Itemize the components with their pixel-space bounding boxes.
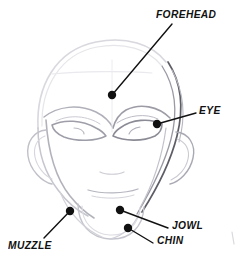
callout-label-forehead: FOREHEAD <box>156 9 216 20</box>
left-eye <box>52 121 106 140</box>
jaw-bottom-left <box>60 192 104 238</box>
right-eye <box>113 120 162 140</box>
mouth-line <box>88 189 138 193</box>
right-eye-iris <box>129 127 140 134</box>
right-eye-crease <box>117 116 158 123</box>
nose-line <box>100 172 124 174</box>
cranium-outline-inner <box>42 45 161 126</box>
chin-block <box>78 204 144 239</box>
callout-label-muzzle: MUZZLE <box>8 240 52 251</box>
right-ear <box>170 132 194 184</box>
left-eye-crease <box>56 117 100 124</box>
figure-canvas: FOREHEAD EYE JOWL CHIN MUZZLE <box>0 0 243 267</box>
horizontal-brow-guide <box>52 72 152 74</box>
page-edge-mark <box>232 232 234 244</box>
face-mass-outline <box>38 128 88 216</box>
right-head-contour <box>142 62 181 212</box>
callout-label-eye: EYE <box>199 105 221 116</box>
callout-label-chin: CHIN <box>157 235 184 246</box>
left-brow-ridge <box>44 107 113 128</box>
mouth-line-2 <box>92 195 134 198</box>
callout-label-jowl: JOWL <box>172 220 203 231</box>
left-eye-iris <box>74 128 84 134</box>
pencil-sketch <box>0 0 243 267</box>
